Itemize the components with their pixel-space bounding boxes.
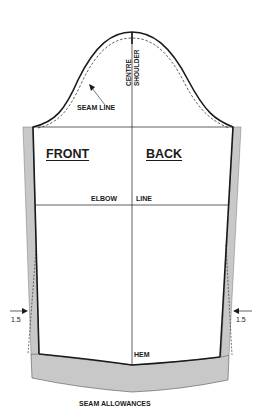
back-label: BACK [146,147,182,161]
seam-line-arrowhead [89,84,95,91]
left-arrow-icon [22,308,28,314]
elbow-label: ELBOW [91,195,117,202]
right-allowance-value: 1.5 [236,316,246,323]
front-label: FRONT [46,147,89,161]
seam-line-label: SEAM LINE [77,104,115,111]
right-arrow-icon [233,308,239,314]
left-allowance-value: 1.5 [11,316,21,323]
line-label: LINE [136,195,152,202]
hem-label: HEM [134,351,150,358]
shoulder-label: SHOULDER [133,50,140,86]
centre-label: CENTRE [125,59,132,86]
seam-line-pointer [92,88,105,105]
caption: SEAM ALLOWANCES [79,400,151,407]
